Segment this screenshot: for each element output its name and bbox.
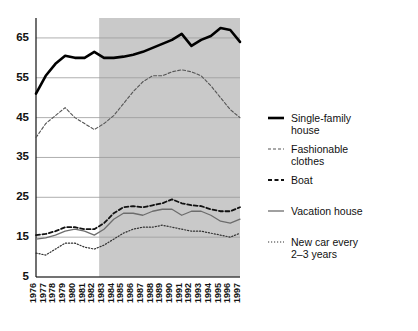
x-axis-tick-label: 1994 [203,283,213,303]
y-axis-tick-label: 45 [16,111,29,123]
x-axis-tick-label: 1988 [145,283,155,303]
legend-label: Fashionable [291,143,348,155]
x-axis-tick-label: 1986 [125,283,135,303]
legend-label-line2: house [291,124,320,136]
x-axis-tick-label: 1987 [135,283,145,303]
y-axis-tick-label: 5 [23,270,30,282]
y-axis-tick-label: 65 [16,31,29,43]
x-axis-tick-label: 1990 [164,283,174,303]
x-axis-tick-label: 1997 [232,283,242,303]
legend-label: Boat [291,174,313,186]
x-axis-tick-label: 1983 [96,283,106,303]
x-axis-tick-label: 1978 [47,283,57,303]
x-axis-tick-label: 1981 [77,283,87,303]
line-chart: 5152535455565197619771978197919801981198… [0,0,418,331]
legend-label: Vacation house [291,205,363,217]
x-axis-tick-label: 1984 [106,283,116,303]
x-axis-tick-label: 1991 [174,283,184,303]
legend-label: New car every [291,236,359,248]
x-axis-tick-label: 1980 [67,283,77,303]
x-axis-tick-label: 1979 [57,283,67,303]
legend-label-line2: clothes [291,155,324,167]
y-axis-tick-label: 35 [16,150,29,162]
legend-label: Single-family [291,112,352,124]
x-axis-tick-label: 1976 [28,283,38,303]
y-axis-tick-label: 25 [16,190,29,202]
legend-label-line2: 2–3 years [291,248,337,260]
x-axis-tick-label: 1996 [222,283,232,303]
y-axis-tick-label: 15 [16,230,29,242]
x-axis-tick-label: 1992 [183,283,193,303]
x-axis-tick-label: 1982 [86,283,96,303]
x-axis-tick-label: 1989 [154,283,164,303]
x-axis-tick-label: 1993 [193,283,203,303]
chart-container: 5152535455565197619771978197919801981198… [0,0,418,331]
x-axis-tick-label: 1977 [38,283,48,303]
y-axis-tick-label: 55 [16,71,29,83]
x-axis-tick-label: 1985 [115,283,125,303]
x-axis-tick-label: 1995 [213,283,223,303]
